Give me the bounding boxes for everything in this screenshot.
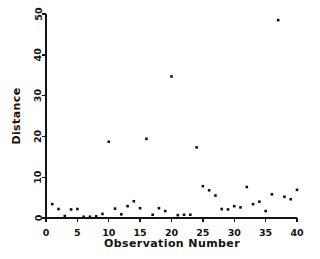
data-point (114, 207, 117, 210)
x-tick-label: 40 (290, 227, 304, 238)
data-point (158, 207, 161, 210)
y-tick-label: 50 (33, 7, 44, 21)
x-tick-label: 20 (165, 227, 179, 238)
axes-group (46, 14, 297, 218)
data-point (195, 146, 198, 149)
data-point (64, 215, 67, 218)
data-point (120, 213, 123, 216)
y-axis-title: Distance (10, 87, 23, 144)
data-point (258, 200, 261, 203)
data-point (189, 213, 192, 216)
data-point (296, 189, 299, 192)
data-point (170, 75, 173, 78)
data-point (176, 214, 179, 217)
data-point (202, 185, 205, 188)
data-point (101, 213, 104, 216)
x-tick-label: 35 (259, 227, 272, 238)
scatter-plot-figure: 01020304050 0510152025303540 Distance Ob… (0, 0, 320, 259)
x-tick-label: 15 (134, 227, 147, 238)
data-point (283, 195, 286, 198)
plot-canvas: 01020304050 0510152025303540 Distance Ob… (0, 0, 320, 259)
x-tick-label: 0 (43, 227, 50, 238)
data-point (271, 193, 274, 196)
data-point (126, 205, 129, 208)
x-tick-label: 5 (74, 227, 81, 238)
data-point (233, 205, 236, 208)
data-point (252, 203, 255, 206)
data-point (183, 213, 186, 216)
data-point (289, 198, 292, 201)
data-point (51, 203, 54, 206)
y-tick-label: 0 (33, 214, 44, 221)
x-axis-title: Observation Number (104, 237, 240, 250)
x-axis-tick-labels: 0510152025303540 (43, 227, 304, 238)
data-point (133, 200, 136, 203)
data-point (82, 215, 85, 218)
data-point (57, 208, 60, 211)
data-point (145, 138, 148, 141)
y-axis-tick-labels: 01020304050 (33, 7, 44, 221)
data-point (89, 215, 92, 218)
data-point (164, 210, 167, 213)
y-tick-label: 20 (33, 129, 44, 143)
data-point (208, 189, 211, 192)
data-points-group (51, 19, 298, 218)
y-tick-label: 40 (33, 48, 44, 62)
data-point (220, 208, 223, 211)
data-point (76, 208, 79, 211)
x-tick-label: 10 (102, 227, 116, 238)
x-tick-label: 30 (228, 227, 242, 238)
data-point (139, 207, 142, 210)
data-point (239, 206, 242, 209)
data-point (151, 213, 154, 216)
y-tick-label: 10 (33, 170, 44, 184)
data-point (214, 194, 217, 197)
y-tick-label: 30 (33, 89, 44, 103)
x-tick-label: 25 (196, 227, 209, 238)
data-point (246, 186, 249, 189)
data-point (70, 208, 73, 211)
data-point (95, 215, 98, 218)
data-point (227, 208, 230, 211)
data-point (107, 140, 110, 143)
data-point (264, 210, 267, 213)
data-point (277, 19, 280, 22)
